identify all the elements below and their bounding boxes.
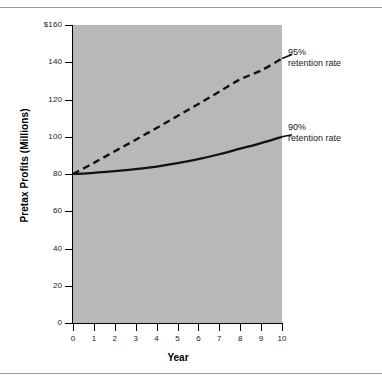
x-tick-1: [94, 324, 95, 331]
x-tick-label-0: 0: [63, 334, 83, 343]
x-tick-2: [115, 324, 116, 331]
y-tick-label-20: 20: [2, 282, 62, 290]
x-tick-label-5: 5: [168, 334, 188, 343]
y-tick-label-160: $160: [2, 21, 62, 29]
x-axis-title: Year: [73, 352, 283, 363]
x-tick-7: [219, 324, 220, 331]
y-tick-label-80: 80: [2, 170, 62, 178]
chart-figure: 020406080100120140$160 012345678910 Pret…: [0, 0, 382, 383]
y-tick-60: [65, 211, 73, 212]
x-tick-3: [136, 324, 137, 331]
y-tick-label-140: 140: [2, 58, 62, 66]
y-tick-label-100: 100: [2, 133, 62, 141]
x-tick-label-8: 8: [230, 334, 250, 343]
x-tick-label-9: 9: [251, 334, 271, 343]
y-tick-label-120: 120: [2, 96, 62, 104]
y-axis-title: Pretax Profits (Millions): [19, 76, 30, 256]
x-tick-5: [178, 324, 179, 331]
x-tick-4: [157, 324, 158, 331]
top-rule: [0, 7, 382, 8]
y-tick-40: [65, 249, 73, 250]
y-tick-label-0: 0: [2, 319, 62, 327]
y-tick-100: [65, 137, 73, 138]
x-tick-10: [282, 324, 283, 331]
y-tick-label-60: 60: [2, 207, 62, 215]
x-tick-label-3: 3: [126, 334, 146, 343]
x-tick-label-4: 4: [147, 334, 167, 343]
annotation-90-retention: 90% retention rate: [288, 122, 341, 144]
y-tick-140: [65, 62, 73, 63]
x-tick-label-7: 7: [209, 334, 229, 343]
x-tick-label-2: 2: [105, 334, 125, 343]
y-tick-0: [65, 323, 73, 324]
y-tick-label-40: 40: [2, 245, 62, 253]
x-tick-label-10: 10: [272, 334, 292, 343]
series-line-90-retention: [73, 137, 282, 174]
bottom-rule: [0, 373, 382, 374]
x-tick-label-6: 6: [188, 334, 208, 343]
plot-frame: [73, 25, 282, 323]
x-tick-label-1: 1: [84, 334, 104, 343]
x-tick-8: [240, 324, 241, 331]
y-tick-80: [65, 174, 73, 175]
y-tick-160: [65, 25, 73, 26]
series-line-95-retention: [73, 59, 282, 174]
y-tick-120: [65, 100, 73, 101]
x-tick-9: [261, 324, 262, 331]
series-layer: [73, 25, 282, 323]
x-tick-6: [198, 324, 199, 331]
annotation-95-retention: 95% retention rate: [288, 47, 341, 69]
y-tick-20: [65, 286, 73, 287]
x-tick-0: [73, 324, 74, 331]
